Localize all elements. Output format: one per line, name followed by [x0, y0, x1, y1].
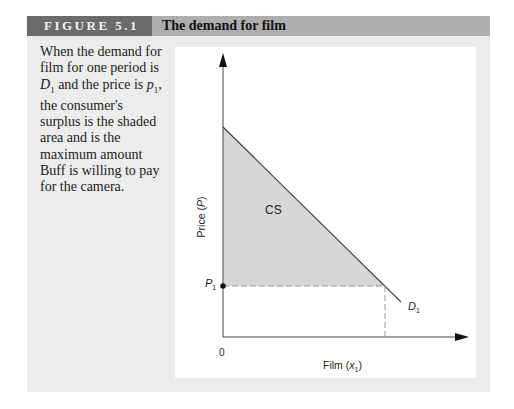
- x-axis-arrow-icon: [455, 333, 469, 341]
- p1-point: [220, 283, 226, 289]
- origin-label: 0: [219, 347, 225, 358]
- x-axis-label: Film (x1): [323, 359, 362, 373]
- y-axis-label: Price (P): [195, 197, 207, 238]
- figure-title: The demand for film: [152, 16, 490, 36]
- demand-chart: CS P1 D1 0 Film (x1) Price (P): [175, 47, 476, 378]
- cs-label: CS: [265, 203, 282, 217]
- y-axis-arrow-icon: [219, 53, 227, 67]
- figure-caption: When the demand for film for one period …: [40, 44, 165, 195]
- figure-label: FIGURE 5.1: [27, 16, 152, 36]
- p1-label: P1: [205, 277, 216, 291]
- d1-label: D1: [408, 300, 420, 314]
- chart-area: CS P1 D1 0 Film (x1) Price (P): [175, 47, 476, 378]
